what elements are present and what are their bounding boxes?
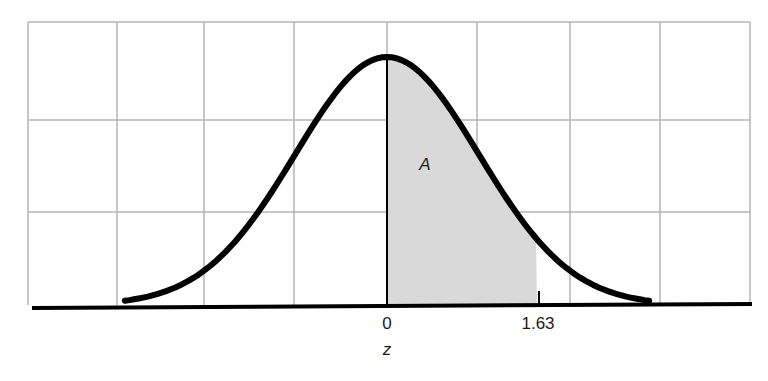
x-axis-label: z: [383, 340, 392, 360]
shaded-area-a: [387, 57, 537, 305]
x-axis-baseline: [32, 304, 752, 308]
tick-label-zero: 0: [382, 314, 391, 334]
area-label-a: A: [419, 155, 430, 175]
tick-label-163: 1.63: [521, 314, 554, 334]
